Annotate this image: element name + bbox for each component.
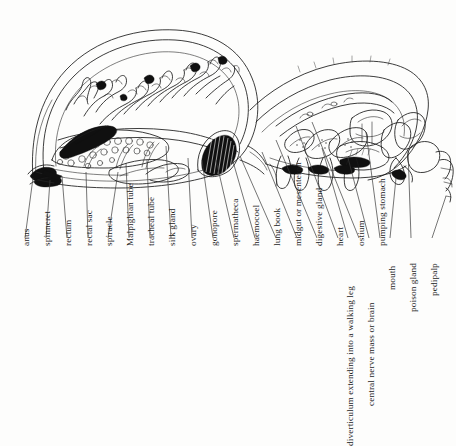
heart-and-ostia [276, 93, 394, 136]
pedicel [240, 146, 267, 174]
label-gonopore[interactable]: gonopore [210, 210, 219, 246]
label-ovary[interactable]: ovary [189, 224, 198, 246]
digestive-gland-branches [66, 56, 239, 124]
setae [298, 56, 390, 72]
label-tracheal-tube[interactable]: tracheal tube [147, 197, 156, 246]
leader-mouth [390, 178, 396, 238]
label-diverticulum-walking-leg[interactable]: diverticulum extending into a walking le… [346, 286, 355, 446]
ovary-and-reproductive-organs [109, 159, 190, 184]
label-spinneret[interactable]: spinneret [43, 211, 52, 246]
label-ostium[interactable]: ostium [357, 220, 366, 246]
label-midgut-or-mesenteron[interactable]: midgut or mesenteron [294, 162, 303, 246]
label-pedipalp[interactable]: pedipalp [430, 263, 439, 296]
label-silk-gland[interactable]: silk gland [168, 209, 177, 246]
label-malpighian-tube[interactable]: Malpighian tube [126, 183, 135, 246]
leader-poison-gland [408, 150, 411, 238]
label-spermatheca[interactable]: spermatheca [231, 198, 240, 246]
label-mouth[interactable]: mouth [388, 266, 397, 290]
label-spiracle[interactable]: spiracle [105, 216, 114, 246]
rectal-sac-dark-organ [60, 126, 117, 159]
label-heart[interactable]: heart [336, 227, 345, 246]
label-rectum[interactable]: rectum [64, 220, 73, 246]
label-anus[interactable]: anus [22, 229, 31, 246]
label-haemocoel[interactable]: haemocoel [252, 205, 261, 246]
anatomical-figure: anus spinneret rectum rectal sac spiracl… [0, 0, 456, 446]
label-central-nerve-mass[interactable]: central nerve mass or brain [367, 302, 376, 406]
label-pumping-stomach[interactable]: pumping stomach [378, 178, 387, 246]
poison-gland [395, 113, 425, 150]
spinnerets-and-anus [28, 165, 62, 187]
pedipalp [408, 142, 454, 203]
label-poison-gland[interactable]: poison gland [409, 263, 418, 312]
leader-pedipalp [432, 196, 446, 238]
label-rectal-sac[interactable]: rectal sac [85, 210, 94, 246]
label-lung-book[interactable]: lung book [273, 208, 282, 246]
label-digestive-gland[interactable]: digestive gland [315, 188, 324, 246]
